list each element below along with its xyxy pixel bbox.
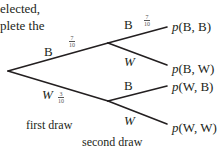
outcome-bb: p(B, B) <box>172 20 211 33</box>
label-first-b: B <box>44 45 53 58</box>
prob-first-b: 7 10 <box>69 35 75 48</box>
branch-first-b <box>8 43 108 71</box>
label-ww: W <box>124 114 135 127</box>
label-bb: B <box>124 18 133 31</box>
outcome-ww: p(W, W) <box>172 121 217 134</box>
branch-ww <box>108 101 167 124</box>
prob-first-w: 3 10 <box>58 91 64 104</box>
branch-bw <box>108 43 167 65</box>
label-first-w: W <box>42 88 53 101</box>
caption-first-draw: first draw <box>26 119 72 131</box>
outcome-bw: p(B, W) <box>172 62 214 75</box>
label-wb: B <box>124 79 133 92</box>
branch-wb <box>108 86 167 101</box>
label-bw: W <box>124 55 135 68</box>
outcome-wb: p(W, B) <box>172 80 213 93</box>
prob-bb: 7 10 <box>144 14 150 27</box>
caption-second-draw: second draw <box>82 136 142 148</box>
branch-bb <box>108 27 167 43</box>
